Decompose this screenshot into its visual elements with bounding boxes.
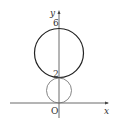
y-axis-label: y [49,8,56,18]
coordinate-diagram: y 6 2 O x [0,0,117,124]
tick-label-6: 6 [53,18,59,28]
tick-label-2: 2 [53,69,59,79]
x-axis-label: x [104,106,109,116]
y-axis-arrow-icon [58,10,61,14]
x-axis-arrow-icon [105,102,109,105]
origin-label: O [51,106,58,116]
